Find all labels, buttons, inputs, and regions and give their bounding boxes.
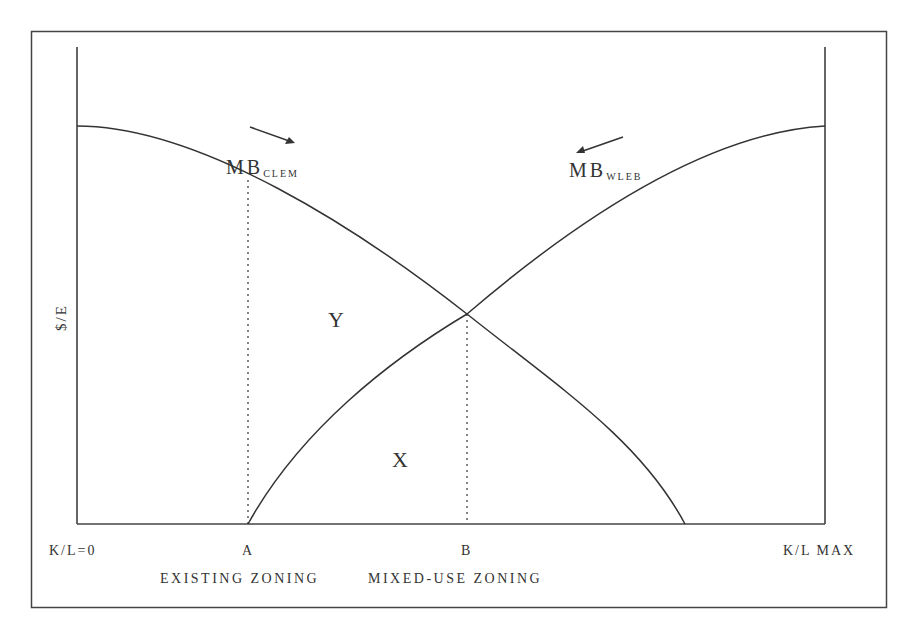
mb-clem-main: MB bbox=[226, 156, 263, 178]
region-x-label: X bbox=[392, 447, 408, 473]
mb-wleb-sub: WLEB bbox=[606, 171, 642, 182]
y-axis-label: $/E bbox=[53, 304, 70, 331]
mixed-use-zoning-label: MIXED-USE ZONING bbox=[368, 571, 542, 587]
tick-max-label: K/L MAX bbox=[783, 543, 855, 559]
mb-wleb-main: MB bbox=[569, 159, 606, 181]
mb-clem-sub: CLEM bbox=[263, 168, 299, 179]
mb-clem-label: MBCLEM bbox=[226, 156, 299, 179]
tick-b-label: B bbox=[461, 543, 472, 559]
mb-clem-curve bbox=[77, 126, 685, 524]
arrow-left-icon bbox=[576, 137, 623, 153]
mb-wleb-label: MBWLEB bbox=[569, 159, 642, 182]
tick-a-label: A bbox=[242, 543, 254, 559]
diagram-canvas bbox=[0, 0, 916, 633]
existing-zoning-label: EXISTING ZONING bbox=[160, 571, 319, 587]
region-y-label: Y bbox=[328, 307, 344, 333]
arrow-right-icon bbox=[250, 127, 295, 144]
tick-origin-label: K/L=0 bbox=[49, 543, 96, 559]
